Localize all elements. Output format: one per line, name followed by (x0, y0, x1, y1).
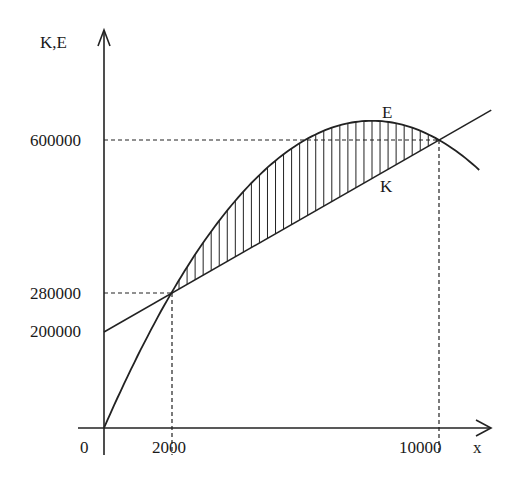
line-k (104, 110, 491, 332)
origin-label: 0 (80, 438, 89, 457)
y-tick-280000: 280000 (30, 284, 81, 303)
x-tick-2000: 2000 (152, 438, 186, 457)
line-k-label: K (380, 177, 393, 196)
y-tick-200000: 200000 (30, 322, 81, 341)
x-tick-10000: 10000 (399, 438, 442, 457)
profit-chart: K,E x 0 600000 280000 200000 2000 10000 … (0, 0, 524, 483)
hatched-profit-region (171, 121, 436, 294)
x-axis-label: x (473, 438, 482, 457)
curve-e-label: E (382, 103, 392, 122)
y-tick-600000: 600000 (30, 131, 81, 150)
y-axis-label: K,E (40, 33, 67, 52)
